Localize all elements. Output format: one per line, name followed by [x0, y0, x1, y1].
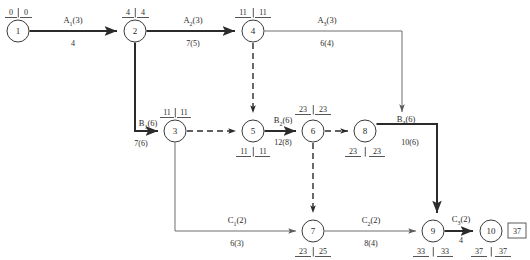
node-6-times: 23 23 [295, 105, 331, 115]
activity-a2-duration: 7(5) [186, 39, 200, 48]
node-6-early-time: 23 [299, 105, 307, 114]
node-4-late-time: 11 [259, 8, 267, 17]
node-3[interactable]: 3 [164, 120, 186, 142]
node-1-label: 1 [16, 26, 21, 36]
node-9-times: 33 33 [413, 247, 453, 257]
node-10-early-time: 37 [475, 247, 483, 256]
activity-a1-duration: 4 [71, 39, 75, 48]
node-2-early-time: 4 [126, 8, 130, 17]
activity-b2-name-group: B2(6) [274, 115, 293, 127]
activity-a2-paren: (3) [193, 15, 203, 25]
activity-a3-duration: 6(4) [320, 39, 334, 48]
activity-c2-name-group: C2(2) [362, 215, 381, 227]
activity-c1-paren: (2) [236, 215, 246, 225]
activity-a1-paren: (3) [73, 15, 83, 25]
activity-c1-duration: 6(3) [230, 239, 244, 248]
activity-a3-name-group: A3(3) [317, 15, 336, 27]
activity-b1-duration: 7(6) [134, 139, 148, 148]
node-9[interactable]: 9 [422, 220, 444, 242]
node-2[interactable]: 2 [124, 20, 146, 42]
activity-c2-duration: 8(4) [364, 239, 378, 248]
node-4[interactable]: 4 [242, 20, 264, 42]
node-3-times: 11 11 [160, 108, 191, 118]
node-10-late-time: 37 [499, 247, 507, 256]
node-6-label: 6 [311, 126, 316, 136]
node-7-late-time: 25 [319, 247, 327, 256]
activity-a3-paren: (3) [327, 15, 337, 25]
node-9-late-time: 33 [441, 247, 449, 256]
network-diagram-canvas: 1 2 4 3 5 6 8 7 [0, 0, 530, 260]
activity-b2-paren: (6) [282, 115, 292, 125]
activity-a2-name-group: A2(3) [183, 15, 202, 27]
activity-a1-name-group: A1(3) [63, 15, 82, 27]
activity-b3-name-group: B3(6) [397, 114, 416, 126]
node-4-times: 11 11 [235, 8, 271, 18]
node-8-times: 23 23 [345, 147, 385, 157]
node-2-late-time: 4 [141, 8, 145, 17]
activity-b2-duration: 12(8) [274, 138, 292, 147]
activity-c3-name-group: C3(2) [452, 214, 471, 226]
activity-b3-duration: 10(6) [401, 138, 419, 147]
activity-b3-paren: (6) [405, 114, 415, 124]
node-9-early-time: 33 [417, 247, 425, 256]
activity-c1-name-group: C1(2) [228, 215, 247, 227]
node-10[interactable]: 10 [480, 220, 502, 242]
node-5-times: 11 11 [236, 147, 270, 157]
node-6-late-time: 23 [319, 105, 327, 114]
node-5[interactable]: 5 [242, 120, 264, 142]
node-4-early-time: 11 [239, 8, 247, 17]
activity-c3-paren: (2) [460, 214, 470, 224]
node-8-late-time: 23 [373, 147, 381, 156]
node-10-times: 37 37 [471, 247, 511, 257]
node-8[interactable]: 8 [354, 120, 376, 142]
node-3-late-time: 11 [180, 108, 188, 117]
node-10-label: 10 [487, 226, 497, 236]
node-2-times: 4 4 [122, 8, 149, 18]
node-1-late-time: 0 [24, 8, 28, 17]
node-7[interactable]: 7 [302, 220, 324, 242]
node-2-label: 2 [133, 26, 138, 36]
activity-c3-duration: 4 [459, 236, 463, 245]
node-8-early-time: 23 [349, 147, 357, 156]
node-4-label: 4 [251, 26, 256, 36]
project-duration-badge: 37 [508, 223, 526, 238]
node-1[interactable]: 1 [7, 20, 29, 42]
node-6[interactable]: 6 [302, 120, 324, 142]
node-3-early-time: 11 [163, 108, 171, 117]
node-3-label: 3 [173, 126, 178, 136]
node-5-early-time: 11 [240, 147, 248, 156]
node-1-times: 0 0 [5, 8, 32, 18]
node-7-times: 23 25 [295, 247, 331, 257]
project-duration-value: 37 [513, 227, 521, 236]
node-1-early-time: 0 [9, 8, 13, 17]
node-5-late-time: 11 [259, 147, 267, 156]
node-9-label: 9 [431, 226, 436, 236]
node-7-early-time: 23 [299, 247, 307, 256]
node-5-label: 5 [251, 126, 256, 136]
activity-b1-paren: (6) [147, 118, 157, 128]
activity-c2-paren: (2) [370, 215, 380, 225]
node-8-label: 8 [363, 126, 368, 136]
node-7-label: 7 [311, 226, 316, 236]
activity-b1-name-group: B1(6) [139, 118, 158, 130]
